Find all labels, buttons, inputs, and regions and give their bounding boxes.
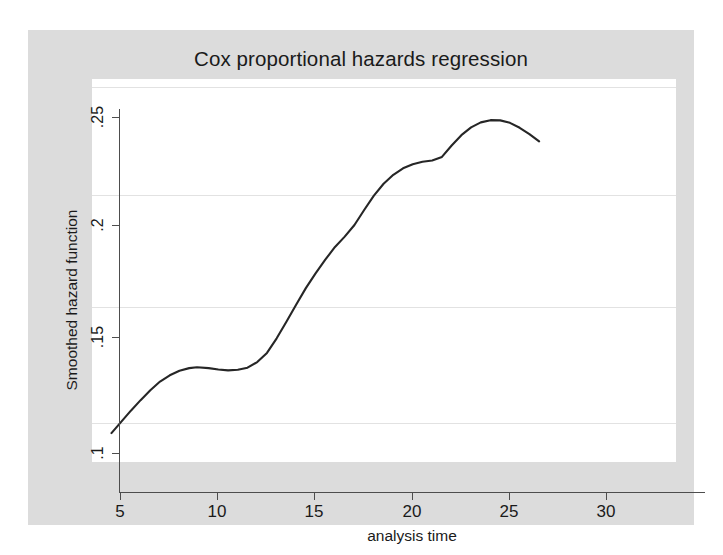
y-tick-0.20 [112, 225, 119, 226]
y-tick-0.15 [112, 337, 119, 338]
x-tick-label-10: 10 [208, 502, 227, 522]
x-tick-label-5: 5 [115, 502, 124, 522]
y-tick-label-0.15: .15 [89, 326, 107, 348]
y-tick-0.25 [112, 117, 119, 118]
hazard-curve [92, 79, 676, 462]
y-axis-title: Smoothed hazard function [63, 210, 81, 391]
x-tick-30 [606, 493, 607, 500]
chart-figure: Cox proportional hazards regression .25 … [28, 30, 694, 525]
x-tick-20 [412, 493, 413, 500]
x-tick-label-15: 15 [305, 502, 324, 522]
x-tick-15 [314, 493, 315, 500]
x-tick-5 [120, 493, 121, 500]
x-axis-title: analysis time [367, 527, 457, 545]
chart-title: Cox proportional hazards regression [28, 47, 694, 71]
y-tick-label-0.10: .1 [89, 446, 107, 459]
x-tick-label-20: 20 [403, 502, 422, 522]
x-tick-label-30: 30 [597, 502, 616, 522]
y-axis-line [119, 109, 120, 493]
x-tick-label-25: 25 [500, 502, 519, 522]
x-tick-25 [509, 493, 510, 500]
y-tick-label-0.25: .25 [89, 106, 107, 128]
plot-area [92, 79, 676, 462]
y-tick-label-0.20: .2 [89, 218, 107, 231]
y-tick-0.10 [112, 453, 119, 454]
x-tick-10 [217, 493, 218, 500]
